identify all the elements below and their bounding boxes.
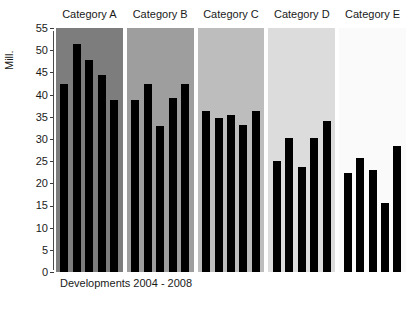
bar-series — [339, 28, 406, 272]
bar — [273, 161, 281, 272]
y-axis-tick: 50 — [36, 44, 54, 56]
y-axis-tick: 25 — [36, 155, 54, 167]
y-axis-tick-label: 45 — [36, 66, 50, 78]
y-axis-tick: 35 — [36, 111, 54, 123]
y-axis-tick-label: 50 — [36, 44, 50, 56]
y-axis-tick-label: 10 — [36, 222, 50, 234]
chart-panel: Category C — [198, 28, 265, 272]
bar — [169, 98, 177, 272]
bar-series — [198, 28, 265, 272]
y-axis-tick-label: 40 — [36, 89, 50, 101]
bar — [393, 146, 401, 272]
bar — [144, 84, 152, 272]
bar-chart: Mill. 5550454035302520151050 Category AC… — [0, 0, 410, 311]
panel-group: Category ACategory BCategory CCategory D… — [56, 28, 406, 272]
y-axis-tick: 45 — [36, 66, 54, 78]
bar-series — [268, 28, 335, 272]
y-axis-tick-label: 15 — [36, 199, 50, 211]
panel-title: Category D — [274, 8, 330, 20]
bar — [60, 84, 68, 272]
y-axis-tick-mark — [50, 272, 54, 273]
y-axis-tick-label: 25 — [36, 155, 50, 167]
panel-title: Category C — [203, 8, 259, 20]
y-axis-tick-label: 30 — [36, 133, 50, 145]
bar — [369, 170, 377, 272]
bar — [131, 100, 139, 272]
y-axis-tick-mark — [50, 28, 54, 29]
y-axis-tick-label: 5 — [42, 244, 50, 256]
bar — [298, 167, 306, 272]
chart-panel: Category D — [268, 28, 335, 272]
y-axis-tick: 55 — [36, 22, 54, 34]
y-axis-tick: 10 — [36, 222, 54, 234]
y-axis-tick-label: 0 — [42, 266, 50, 278]
bar-series — [56, 28, 123, 272]
y-axis-tick: 30 — [36, 133, 54, 145]
bar — [215, 118, 223, 272]
bar — [252, 111, 260, 272]
bar — [202, 111, 210, 272]
chart-caption: Developments 2004 - 2008 — [60, 277, 192, 289]
bar — [344, 173, 352, 272]
bar — [85, 60, 93, 272]
chart-panel: Category B — [127, 28, 194, 272]
bar-series — [127, 28, 194, 272]
panel-title: Category A — [62, 8, 116, 20]
bar — [73, 44, 81, 272]
bar — [381, 203, 389, 272]
y-axis-tick: 20 — [36, 177, 54, 189]
bar — [227, 115, 235, 272]
panel-title: Category E — [345, 8, 400, 20]
y-axis-tick-label: 35 — [36, 111, 50, 123]
bar — [98, 75, 106, 272]
y-axis-tick-label: 55 — [36, 22, 50, 34]
bar — [356, 158, 364, 272]
y-axis-tick-label: 20 — [36, 177, 50, 189]
y-axis-spine — [53, 31, 54, 270]
y-axis-tick: 15 — [36, 199, 54, 211]
bar — [110, 100, 118, 272]
chart-panel: Category A — [56, 28, 123, 272]
y-axis-title: Mill. — [2, 30, 16, 70]
bar — [239, 125, 247, 272]
chart-panel: Category E — [339, 28, 406, 272]
panel-title: Category B — [133, 8, 188, 20]
y-axis: 5550454035302520151050 — [18, 28, 54, 272]
bar — [181, 84, 189, 272]
bar — [323, 121, 331, 272]
bar — [310, 138, 318, 272]
bar — [156, 126, 164, 272]
bar — [285, 138, 293, 272]
y-axis-tick: 40 — [36, 89, 54, 101]
